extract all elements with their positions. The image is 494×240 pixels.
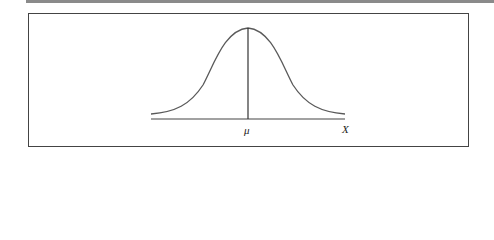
mean-label: μ — [244, 124, 250, 136]
x-axis-label: X — [342, 123, 349, 135]
